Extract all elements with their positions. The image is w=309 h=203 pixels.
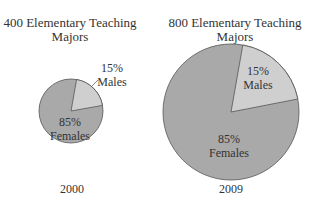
right-females-pct: 85% [218, 132, 240, 146]
left-males-pct: 15% [101, 61, 123, 75]
right-males-label: Males [243, 78, 273, 92]
left-pie: 15% Males 85% Females [39, 61, 127, 143]
right-females-label: Females [209, 146, 249, 160]
right-year-caption: 2009 [209, 182, 253, 197]
right-males-pct: 15% [247, 64, 269, 78]
left-females-label: Females [50, 129, 90, 143]
left-females-pct: 85% [59, 115, 81, 129]
pie-charts: 15% Males 85% Females 15% Males 85% Fema… [0, 0, 309, 203]
left-year-caption: 2000 [50, 182, 94, 197]
left-males-label: Males [97, 75, 127, 89]
right-pie: 15% Males 85% Females [163, 44, 299, 180]
